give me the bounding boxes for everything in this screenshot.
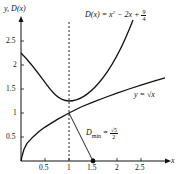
d-curve-path: [21, 20, 133, 101]
x-tick-label: 0.5: [39, 164, 48, 172]
x-tick-label: 2: [115, 164, 119, 172]
x-tick-label: 1.5: [87, 164, 96, 172]
d-curve-label: D(x) = x2 − 2x + 94: [85, 9, 146, 22]
y-axis-label: y, D(x): [4, 5, 26, 13]
x-tick-label: 2.5: [135, 164, 144, 172]
y-tick-label: 2.5: [6, 37, 15, 45]
x-tick-label: 1: [67, 164, 71, 172]
sqrt-curve-label: y = √x: [134, 91, 155, 99]
x-axis-label: x: [171, 157, 175, 165]
y-tick-label: 0.5: [6, 133, 15, 141]
y-tick-label: 2: [13, 61, 17, 69]
dmin-label: Dmin = √52: [86, 127, 118, 140]
y-axis-arrow-icon: [19, 16, 24, 22]
y-tick-label: 1.5: [6, 85, 15, 93]
chart-canvas: [0, 0, 176, 174]
y-tick-label: 1: [13, 109, 17, 117]
